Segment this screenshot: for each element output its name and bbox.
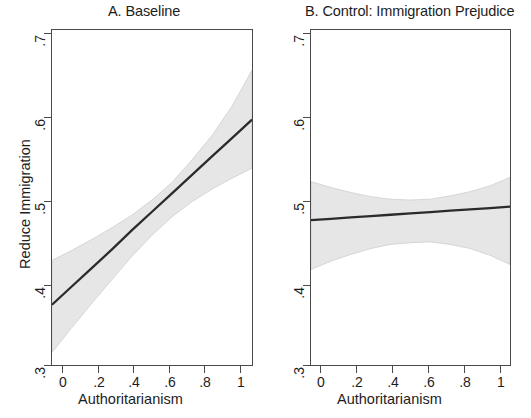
panel-a-xlabel-1: 1 — [226, 374, 256, 390]
panel-a-ylabel-4: .4 — [32, 287, 48, 327]
figure-canvas: A. Baseline .7 .6 .5 .4 .3 0 .2 .4 .6 .8… — [0, 0, 531, 418]
panel-b-xlabel-02: .2 — [342, 374, 372, 390]
panel-a-xlabel-02: .2 — [84, 374, 114, 390]
panel-b-xlabel-06: .6 — [414, 374, 444, 390]
panel-a-xtick-0 — [62, 366, 63, 373]
panel-b-confidence-band — [311, 177, 510, 269]
panel-a-ylabel-3: .3 — [32, 367, 48, 407]
panel-b-ylabel-7: .7 — [291, 35, 307, 75]
panel-a-title: A. Baseline — [108, 3, 180, 19]
panel-b-x-axis-title: Authoritarianism — [337, 391, 442, 407]
panel-b-ylabel-3: .3 — [291, 367, 307, 407]
panel-b-xtick-06 — [428, 366, 429, 373]
panel-a-xtick-02 — [98, 366, 99, 373]
panel-a-xlabel-06: .6 — [155, 374, 185, 390]
panel-a-ylabel-7: .7 — [32, 35, 48, 75]
panel-b-xlabel-0: 0 — [306, 374, 336, 390]
panel-b-xlabel-08: .8 — [450, 374, 480, 390]
panel-b-xtick-1 — [500, 366, 501, 373]
panel-b-ylabel-4: .4 — [291, 287, 307, 327]
panel-a-fit-line — [52, 120, 252, 305]
panel-b-plot-area — [310, 29, 511, 366]
panel-a-ylabel-6: .6 — [32, 119, 48, 159]
panel-b-ylabel-5: .5 — [291, 203, 307, 243]
panel-a-plot-area — [51, 29, 253, 366]
panel-b-xtick-02 — [356, 366, 357, 373]
panel-a-xtick-04 — [133, 366, 134, 373]
panel-a-ylabel-5: .5 — [32, 203, 48, 243]
panel-b-xlabel-1: 1 — [486, 374, 516, 390]
panel-b-title: B. Control: Immigration Prejudice — [305, 3, 514, 19]
panel-a-xlabel-04: .4 — [119, 374, 149, 390]
panel-a-xlabel-0: 0 — [48, 374, 78, 390]
panel-b-xtick-04 — [392, 366, 393, 373]
panel-a-x-axis-title: Authoritarianism — [78, 391, 183, 407]
panel-a-xtick-08 — [204, 366, 205, 373]
panel-a-xlabel-08: .8 — [190, 374, 220, 390]
panel-b-xtick-08 — [464, 366, 465, 373]
panel-baseline: A. Baseline .7 .6 .5 .4 .3 0 .2 .4 .6 .8… — [0, 0, 280, 418]
panel-b-xlabel-04: .4 — [378, 374, 408, 390]
panel-a-xtick-06 — [169, 366, 170, 373]
panel-control-immigration-prejudice: B. Control: Immigration Prejudice .7 .6 … — [280, 0, 531, 418]
panel-a-xtick-1 — [240, 366, 241, 373]
panel-a-series-layer — [52, 30, 252, 365]
panel-b-xtick-0 — [320, 366, 321, 373]
panel-a-y-axis-title: Reduce Immigration — [17, 124, 33, 284]
panel-b-series-layer — [311, 30, 510, 365]
panel-b-ylabel-6: .6 — [291, 119, 307, 159]
